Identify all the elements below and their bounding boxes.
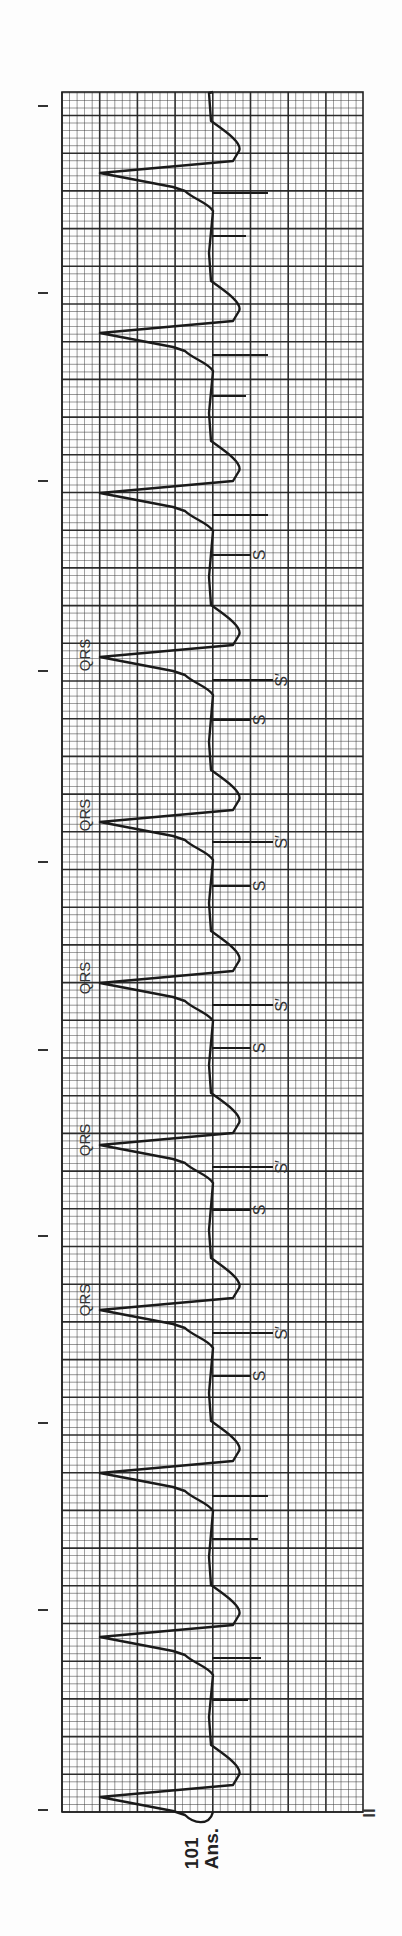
svg-text:S′: S′ xyxy=(273,998,290,1012)
svg-text:QRS: QRS xyxy=(76,962,93,995)
svg-text:QRS: QRS xyxy=(76,639,93,672)
svg-text:S′: S′ xyxy=(273,835,290,849)
ecg-trace xyxy=(100,92,273,1822)
ecg-strip: SS′SS′SS′SS′SS′SQRSQRSQRSQRSQRS xyxy=(0,0,402,1936)
svg-text:S: S xyxy=(251,715,268,726)
figure-caption: 101 Ans. xyxy=(182,1828,222,1869)
svg-text:S: S xyxy=(251,1205,268,1216)
svg-text:QRS: QRS xyxy=(76,1124,93,1157)
svg-text:S: S xyxy=(251,1043,268,1054)
svg-text:S: S xyxy=(251,1371,268,1382)
svg-text:QRS: QRS xyxy=(76,1284,93,1317)
svg-text:S′: S′ xyxy=(273,1326,290,1340)
lead-label: II xyxy=(360,1808,380,1817)
figure-number: 101 xyxy=(182,1828,202,1869)
svg-text:S′: S′ xyxy=(273,1160,290,1174)
svg-text:S: S xyxy=(251,550,268,561)
time-marker-ticks xyxy=(38,106,48,1810)
svg-text:S′: S′ xyxy=(273,673,290,687)
svg-text:S: S xyxy=(251,881,268,892)
svg-text:QRS: QRS xyxy=(76,799,93,832)
figure-answer-label: Ans. xyxy=(202,1828,222,1869)
ecg-grid xyxy=(62,92,363,1812)
